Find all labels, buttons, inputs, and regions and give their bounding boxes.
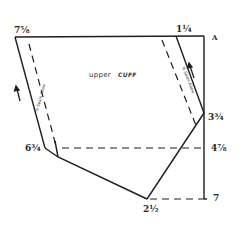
bottom-left-edge <box>45 148 147 199</box>
guide-lines <box>29 40 204 199</box>
label-top-right: 1¼ <box>176 24 192 34</box>
label-corner-a: A <box>211 33 218 42</box>
diagram-title-word2: CUFF <box>118 71 137 78</box>
left-seam-label: ⅜ Seam Allow. <box>34 83 46 113</box>
label-right-mid: 4⅞ <box>211 143 227 153</box>
label-right-bottom: 7 <box>213 193 219 203</box>
left-arrowhead-icon <box>15 86 20 91</box>
label-bottom: 2½ <box>143 204 159 214</box>
label-right-upper: 3¾ <box>208 112 224 122</box>
bottom-right-edge <box>147 113 204 199</box>
label-left-lower: 6¾ <box>25 143 41 153</box>
right-arrowhead-icon <box>188 63 193 68</box>
label-top-left: 7⅝ <box>14 25 30 35</box>
pattern-outline <box>15 36 207 199</box>
cuff-pattern-diagram: ⅜ Seam Allow. ⅜ Seam Allow. upper CUFF 7… <box>0 0 242 230</box>
diagram-title-word1: upper <box>89 71 111 79</box>
